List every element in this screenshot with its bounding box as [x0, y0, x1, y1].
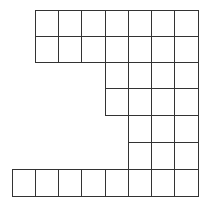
grid-square [174, 142, 198, 170]
grid-square [151, 115, 175, 143]
grid-square [174, 88, 198, 116]
grid-square [128, 10, 152, 37]
grid-square [151, 169, 175, 197]
grid-square [174, 62, 198, 89]
grid-square [81, 36, 105, 63]
grid-square [105, 169, 129, 197]
grid-square [35, 10, 59, 37]
grid-square [174, 10, 198, 37]
grid-square [128, 142, 152, 170]
grid-square [174, 169, 198, 197]
grid-square [128, 169, 152, 197]
grid-square [151, 142, 175, 170]
grid-square [81, 10, 105, 37]
grid-square [128, 62, 152, 89]
grid-square [128, 36, 152, 63]
grid-square [105, 36, 129, 63]
grid-square [105, 10, 129, 37]
grid-square [35, 36, 59, 63]
grid-square [105, 62, 129, 89]
grid-square [128, 115, 152, 143]
grid-square [151, 62, 175, 89]
grid-square [12, 169, 36, 197]
grid-square [174, 36, 198, 63]
grid-square [105, 88, 129, 116]
polyomino-grid [0, 0, 207, 206]
grid-square [58, 10, 82, 37]
grid-square [128, 88, 152, 116]
grid-square [58, 36, 82, 63]
grid-square [151, 10, 175, 37]
grid-square [35, 169, 59, 197]
grid-square [151, 88, 175, 116]
grid-square [58, 169, 82, 197]
grid-square [81, 169, 105, 197]
grid-square [174, 115, 198, 143]
grid-square [151, 36, 175, 63]
